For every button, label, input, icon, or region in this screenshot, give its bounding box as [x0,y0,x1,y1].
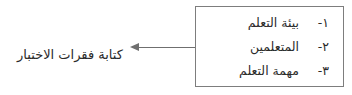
left-caption: كتابة فقرات الاختبار [10,44,130,66]
list-box: ١- بيئة التعلم ٢- المتعلمين ٣- مهمة التع… [195,6,344,87]
list-item: ١- بيئة التعلم [196,11,329,35]
list-item-label: المتعلمين [250,35,303,59]
list-item: ٣- مهمة التعلم [196,59,329,83]
list-item-label: مهمة التعلم [239,59,303,83]
list-item-label: بيئة التعلم [248,11,303,35]
list-item: ٢- المتعلمين [196,35,329,59]
list-box-content: ١- بيئة التعلم ٢- المتعلمين ٣- مهمة التع… [196,7,343,86]
list-item-number: ٢- [303,35,329,59]
list-item-number: ٣- [303,59,329,83]
diagram-canvas: كتابة فقرات الاختبار ١- بيئة التعلم ٢- ا… [0,0,352,95]
arrow-shaft [138,47,195,48]
list-item-number: ١- [303,11,329,35]
